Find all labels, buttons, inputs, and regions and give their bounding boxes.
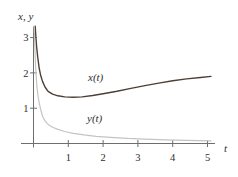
x-tick-label: 2 [100, 152, 105, 163]
x-axis-title: t [224, 142, 228, 154]
curve-xt [35, 26, 211, 97]
y-axis-title: x, y [17, 10, 33, 22]
x-tick-label: 5 [205, 152, 210, 163]
axes [21, 27, 215, 148]
x-tick-label: 1 [66, 152, 71, 163]
curves [34, 26, 211, 141]
series-label-x-of-t: x(t) [87, 71, 104, 84]
y-tick-label: 1 [23, 103, 28, 114]
y-tick-label: 2 [23, 68, 28, 79]
series-label-y-of-t: y(t) [86, 112, 103, 125]
plot-canvas: 12345 123 x, y t x(t) y(t) [0, 0, 238, 177]
x-tick-label: 4 [170, 152, 176, 163]
curve-yt [34, 27, 211, 141]
x-tick-label: 3 [135, 152, 140, 163]
y-tick-label: 3 [23, 32, 28, 43]
y-axis-tick-labels: 123 [23, 32, 28, 114]
xy-vs-t-line-chart: 12345 123 x, y t x(t) y(t) [0, 0, 238, 177]
x-axis-tick-labels: 12345 [66, 152, 210, 163]
